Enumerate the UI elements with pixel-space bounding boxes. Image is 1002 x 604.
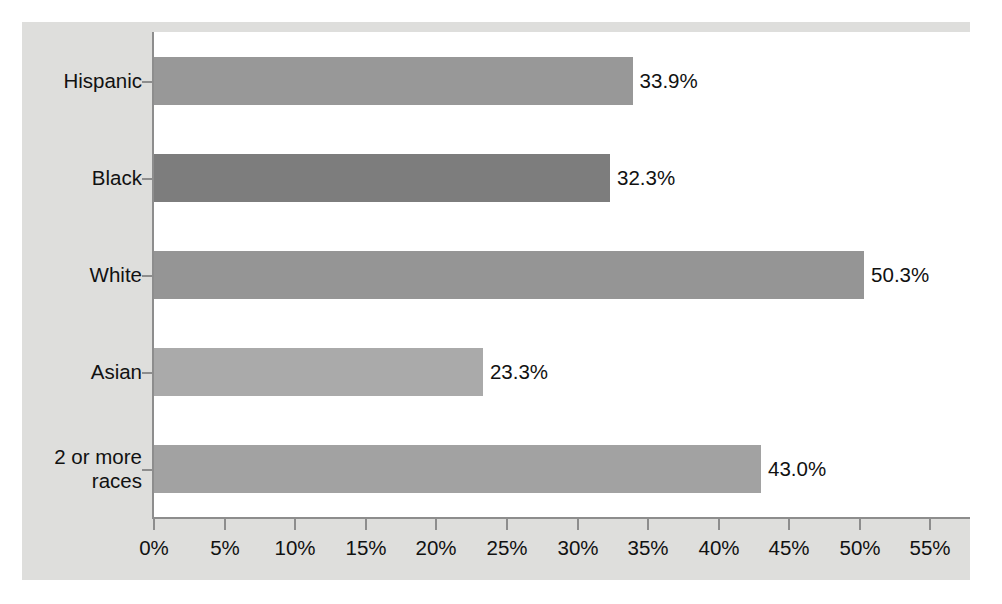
bar-5 [154,445,761,493]
bar-value-label: 33.9% [633,57,698,105]
bar-row: 23.3% [0,348,1002,396]
bars-layer: 33.9%32.3%50.3%23.3%43.0% [0,0,1002,604]
x-axis-tick [224,519,226,530]
bar-2 [154,154,610,202]
bar-value-label: 32.3% [610,154,675,202]
x-axis-tick [788,519,790,530]
x-axis-tick [153,519,155,530]
x-axis-tick [718,519,720,530]
bar-value-label: 23.3% [483,348,548,396]
bar-1 [154,57,633,105]
x-axis-tick [435,519,437,530]
chart-figure: HispanicBlackWhiteAsian2 or more races 3… [0,0,1002,604]
bar-value-label: 43.0% [761,445,826,493]
bar-row: 50.3% [0,251,1002,299]
bar-row: 32.3% [0,154,1002,202]
x-axis-tick [506,519,508,530]
x-axis-tick [577,519,579,530]
x-axis-tick-label: 55% [885,536,975,560]
bar-4 [154,348,483,396]
x-axis-tick [365,519,367,530]
bar-row: 43.0% [0,445,1002,493]
bar-3 [154,251,864,299]
x-axis-tick [294,519,296,530]
bar-row: 33.9% [0,57,1002,105]
bar-value-label: 50.3% [864,251,929,299]
x-axis-tick [859,519,861,530]
x-axis-tick [929,519,931,530]
x-axis-tick [647,519,649,530]
